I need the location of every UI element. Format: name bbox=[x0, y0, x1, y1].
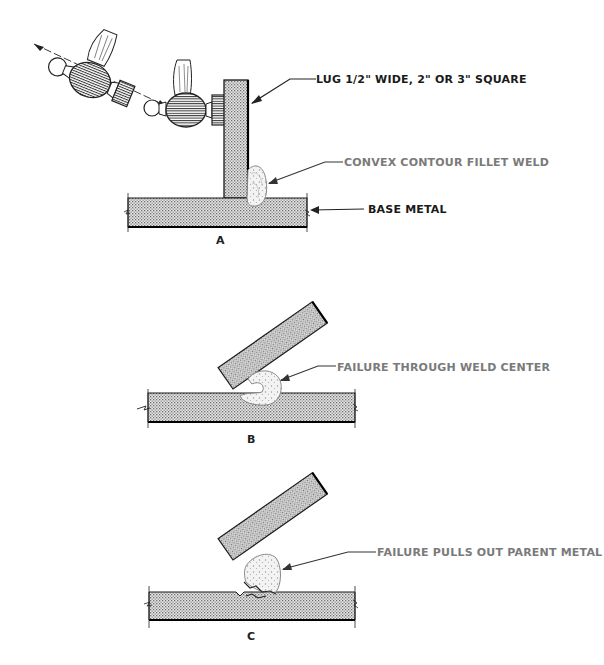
base-metal-plate bbox=[124, 193, 310, 232]
callout-failure-parent-metal: FAILURE PULLS OUT PARENT METAL bbox=[377, 546, 602, 559]
pulled-out-weld bbox=[245, 554, 281, 592]
callout-convex-fillet-weld: CONVEX CONTOUR FILLET WELD bbox=[344, 156, 549, 169]
panel-a bbox=[34, 15, 364, 232]
base-metal-plate-c bbox=[144, 586, 358, 628]
hammer-swing-icon bbox=[43, 15, 150, 112]
panel-label-c: C bbox=[247, 630, 255, 643]
callout-lug-size: LUG 1/2" WIDE, 2" OR 3" SQUARE bbox=[316, 73, 527, 86]
panel-label-b: B bbox=[247, 433, 255, 446]
weld-test-diagram bbox=[0, 0, 604, 665]
panel-b bbox=[137, 302, 358, 428]
lug-bent-c bbox=[218, 473, 327, 560]
panel-c bbox=[144, 473, 376, 628]
panel-label-a: A bbox=[216, 234, 225, 247]
callout-base-metal: BASE METAL bbox=[368, 203, 447, 216]
lug bbox=[224, 80, 248, 198]
hammer-strike-icon bbox=[144, 60, 225, 127]
callout-failure-weld-center: FAILURE THROUGH WELD CENTER bbox=[337, 361, 550, 374]
